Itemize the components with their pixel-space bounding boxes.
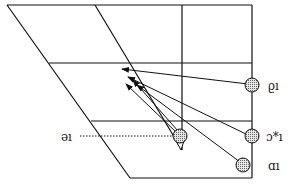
label-ic-star: ɔ*ı xyxy=(266,130,283,144)
label-ie: ǝı xyxy=(61,130,72,144)
diagram: ϱı ɔ*ı ɑı ǝı xyxy=(0,0,290,184)
node-ib xyxy=(245,78,259,92)
node-ia xyxy=(236,158,250,172)
node-ic-star xyxy=(245,129,259,143)
inner-slant-line xyxy=(95,5,182,150)
arrow-ie-2 xyxy=(133,80,178,131)
node-ie xyxy=(173,129,187,143)
label-ia: ɑı xyxy=(268,159,280,173)
arrow-ic-star xyxy=(128,77,248,135)
label-ib: ϱı xyxy=(268,79,279,93)
left-slant-edge xyxy=(7,5,130,178)
